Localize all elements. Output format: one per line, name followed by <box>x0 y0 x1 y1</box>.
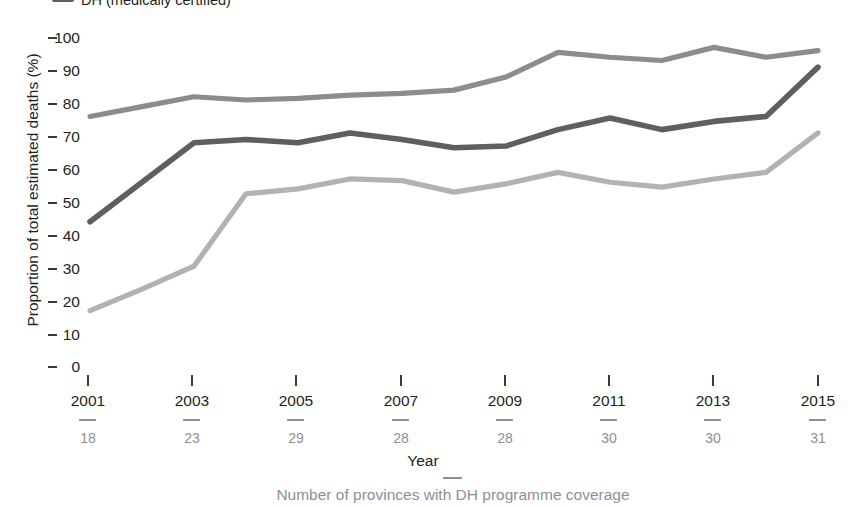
x-tick-mark <box>817 375 819 386</box>
x-tick-label: 2003 <box>162 392 222 410</box>
x-sub-tick-label: 29 <box>266 430 326 446</box>
x-tick-mark <box>295 375 297 386</box>
x-sub-tick-mark <box>183 419 200 421</box>
x-tick-mark <box>504 375 506 386</box>
chart-figure: DH (medically certified) Proportion of t… <box>0 0 853 507</box>
x-tick-mark <box>191 375 193 386</box>
x-sub-tick-mark <box>287 419 304 421</box>
x-tick-label: 2015 <box>788 392 848 410</box>
x-tick-label: 2005 <box>266 392 326 410</box>
x-tick-label: 2001 <box>58 392 118 410</box>
x-sub-tick-label: 18 <box>58 430 118 446</box>
x-sub-tick-label: 31 <box>788 430 848 446</box>
x-sub-tick-label: 28 <box>371 430 431 446</box>
x-tick-mark <box>712 375 714 386</box>
series-line-upper <box>90 47 818 116</box>
x-sub-tick-mark <box>392 419 409 421</box>
x-tick-label: 2007 <box>371 392 431 410</box>
x-tick-label: 2013 <box>683 392 743 410</box>
x-tick-label: 2009 <box>475 392 535 410</box>
x-sub-tick-label: 30 <box>683 430 743 446</box>
x-sub-tick-mark <box>600 419 617 421</box>
x-tick-mark <box>608 375 610 386</box>
x-sub-tick-label: 28 <box>475 430 535 446</box>
x-axis-sub-title: Number of provinces with DH programme co… <box>153 486 753 504</box>
x-sub-tick-mark <box>704 419 721 421</box>
x-tick-mark <box>87 375 89 386</box>
x-axis-sub-divider <box>443 477 462 479</box>
x-tick-mark <box>400 375 402 386</box>
x-sub-tick-label: 30 <box>579 430 639 446</box>
x-sub-tick-mark <box>809 419 826 421</box>
x-sub-tick-label: 23 <box>162 430 222 446</box>
x-axis-title: Year <box>393 452 453 470</box>
x-tick-label: 2011 <box>579 392 639 410</box>
x-sub-tick-mark <box>496 419 513 421</box>
x-sub-tick-mark <box>79 419 96 421</box>
series-line-lower <box>90 133 818 311</box>
